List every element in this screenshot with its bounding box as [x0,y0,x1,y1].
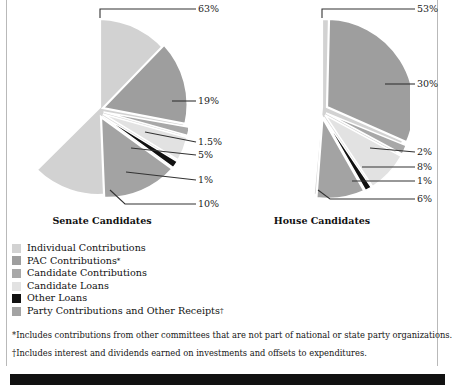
legend-item-candidate-contributions: Candidate Contributions [12,267,223,280]
legend-marker-pac-contributions: * [117,257,121,265]
footnotes: *Includes contributions from other commi… [12,330,442,366]
legend-swatch-candidate-contributions [12,269,21,278]
footnote-asterisk: *Includes contributions from other commi… [12,330,442,340]
legend-item-individual-contributions: Individual Contributions [12,242,223,255]
house-label-pac: 30% [417,78,438,89]
legend-swatch-candidate-loans [12,282,21,291]
bottom-black-bar [10,374,445,385]
legend-swatch-party-contributions-other-receipts [12,307,21,316]
house-label-individual: 53% [417,3,438,14]
legend-item-candidate-loans: Candidate Loans [12,280,223,293]
legend-label-candidate-contributions: Candidate Contributions [27,267,147,280]
legend-swatch-pac-contributions [12,256,21,265]
house-leader-lines [0,0,453,225]
house-chart-title: House Candidates [262,215,382,226]
house-label-candidate-loans: 8% [417,161,432,172]
footnote-dagger: †Includes interest and dividends earned … [12,348,442,358]
legend-item-pac-contributions: PAC Contributions* [12,255,223,268]
legend: Individual Contributions PAC Contributio… [12,242,223,318]
house-label-candidate-contributions: 2% [417,146,432,157]
legend-label-other-loans: Other Loans [27,292,87,305]
legend-label-pac-contributions: PAC Contributions [27,255,117,268]
legend-label-party-contributions-other-receipts: Party Contributions and Other Receipts [27,305,220,318]
legend-swatch-other-loans [12,294,21,303]
legend-swatch-individual-contributions [12,244,21,253]
house-label-party-other: 6% [417,193,432,204]
house-label-other-loans: 1% [417,175,432,186]
legend-marker-party-contributions-other-receipts: † [220,307,224,315]
legend-item-other-loans: Other Loans [12,292,223,305]
legend-label-candidate-loans: Candidate Loans [27,280,109,293]
legend-item-party-contributions-other-receipts: Party Contributions and Other Receipts† [12,305,223,318]
figure-panel: 63% 19% 1.5% 5% 1% 10% Senate Candidates [0,0,453,387]
legend-label-individual-contributions: Individual Contributions [27,242,146,255]
pie-charts-area: 63% 19% 1.5% 5% 1% 10% Senate Candidates [0,0,453,225]
